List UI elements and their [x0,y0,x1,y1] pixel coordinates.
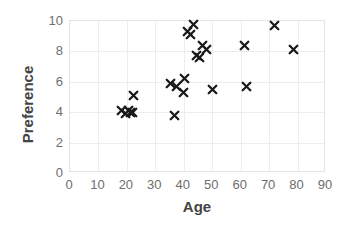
x-axis-title: Age [69,198,325,215]
y-tick-label: 6 [56,74,63,87]
x-tick-label: 80 [289,178,303,191]
y-tick-label: 8 [56,44,63,57]
scatter-chart: 01020304050607080900246810 Age Preferenc… [0,0,346,227]
gridline-vertical [241,21,242,171]
data-point [269,20,280,31]
x-tick-label: 0 [65,178,72,191]
gridline-vertical [298,21,299,171]
gridline-horizontal [70,82,324,83]
x-tick-label: 60 [232,178,246,191]
data-point [197,40,208,51]
plot-area [69,20,325,172]
data-point [194,52,205,63]
data-point [188,19,199,30]
gridline-vertical [184,21,185,171]
gridline-horizontal [70,143,324,144]
gridline-vertical [98,21,99,171]
x-tick-label: 50 [204,178,218,191]
data-point [165,78,176,89]
data-point [201,44,212,55]
x-tick-label: 90 [318,178,332,191]
y-tick-label: 0 [56,166,63,179]
y-tick-label: 10 [49,14,63,27]
gridline-vertical [212,21,213,171]
x-tick-label: 20 [119,178,133,191]
gridline-vertical [269,21,270,171]
data-point [185,29,196,40]
gridline-vertical [127,21,128,171]
data-point [123,105,134,116]
data-point [128,90,139,101]
data-point [120,108,131,119]
gridline-horizontal [70,51,324,52]
gridline-vertical [155,21,156,171]
x-tick-label: 10 [90,178,104,191]
gridline-horizontal [70,112,324,113]
y-tick-label: 2 [56,135,63,148]
data-point [116,105,127,116]
x-tick-label: 30 [147,178,161,191]
x-tick-label: 40 [176,178,190,191]
y-tick-label: 4 [56,105,63,118]
x-tick-label: 70 [261,178,275,191]
y-axis-title: Preference [19,40,36,170]
